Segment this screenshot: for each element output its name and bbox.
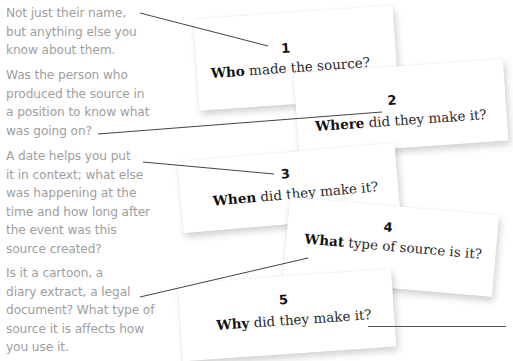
card-keyword: When <box>212 189 257 209</box>
card-number: 3 <box>280 166 290 182</box>
card-number: 1 <box>281 40 291 56</box>
card-keyword: Where <box>315 115 365 134</box>
annotation-where: Was the person who produced the source i… <box>6 66 149 140</box>
annotation-when: A date helps you put it in context; what… <box>6 147 150 259</box>
card-number: 2 <box>387 92 397 108</box>
annotation-what: Is it a cartoon, a diary extract, a lega… <box>6 264 154 357</box>
card-number: 4 <box>383 219 393 235</box>
card-keyword: Why <box>216 315 250 333</box>
card-keyword: What <box>304 230 345 249</box>
card-question: What type of source is it? <box>304 230 483 261</box>
card-question-rest: did they make it? <box>364 106 487 131</box>
card-keyword: Who <box>210 63 245 81</box>
card-question: Where did they make it? <box>315 106 487 134</box>
annotation-who: Not just their name, but anything else y… <box>6 4 137 60</box>
answer-line <box>368 326 506 327</box>
card-question-rest: type of source is it? <box>344 234 483 262</box>
card-question-rest: did they make it? <box>249 306 372 331</box>
question-card-why: 5 Why did they make it? <box>178 269 397 361</box>
card-question: Why did they make it? <box>216 306 372 333</box>
card-number: 5 <box>278 292 288 308</box>
question-card-where: 2 Where did they make it? <box>293 59 508 155</box>
